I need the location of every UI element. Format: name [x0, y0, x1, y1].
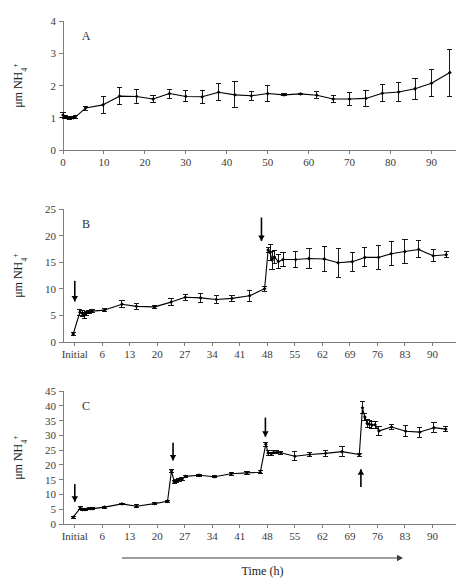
y-tick-label: 20: [45, 459, 57, 471]
x-tick-label: 55: [289, 530, 301, 542]
data-point-marker: [168, 92, 172, 96]
y-tick-label: 20: [45, 230, 57, 242]
data-point-marker: [151, 97, 155, 101]
x-tick-label: 69: [344, 530, 356, 542]
data-point-marker: [217, 90, 221, 94]
data-point-marker: [389, 252, 393, 256]
axis-lines: [63, 21, 456, 150]
data-point-marker: [266, 92, 270, 96]
y-axis-title: μm NH4+: [11, 63, 29, 108]
data-point-marker: [331, 97, 335, 101]
y-tick-label: 25: [45, 203, 57, 215]
x-tick-label: Initial: [62, 530, 88, 542]
x-tick-label: Initial: [62, 348, 88, 360]
data-point-marker: [248, 294, 252, 298]
data-point-marker: [214, 298, 218, 302]
event-arrow-head-feed-event-48h: [258, 235, 264, 241]
x-tick-label: 62: [317, 348, 328, 360]
data-point-marker: [153, 502, 157, 506]
data-point-marker: [413, 87, 417, 91]
panel-letter: C: [82, 399, 90, 413]
x-tick-label: 20: [152, 530, 164, 542]
x-tick-label: 50: [262, 156, 274, 168]
data-point-marker: [377, 256, 381, 260]
panel-c: 051015202530354045Initial613202734414855…: [0, 375, 476, 587]
x-axis-title: Time (h): [242, 564, 284, 578]
plot-a: 012340102030405060708090Aμm NH4+: [0, 0, 476, 195]
x-tick-label: 27: [179, 348, 191, 360]
panel-a: 012340102030405060708090Aμm NH4+: [0, 0, 476, 195]
event-arrow-head-feed-event-24h: [170, 455, 176, 461]
x-tick-label: 20: [152, 348, 164, 360]
figure-root: 012340102030405060708090Aμm NH4+ 0510152…: [0, 0, 476, 587]
event-arrow-head-feed-event-48h: [262, 431, 268, 437]
x-tick-label: 30: [180, 156, 192, 168]
time-direction-arrow-head: [397, 555, 403, 561]
data-point-marker: [322, 257, 326, 261]
data-point-marker: [118, 94, 122, 98]
data-series-line: [63, 73, 450, 118]
data-point-marker: [363, 415, 367, 419]
event-arrow-head-feed-event-0h: [72, 496, 78, 502]
y-axis-title: μm NH4+: [11, 253, 29, 298]
data-point-marker: [184, 95, 188, 99]
y-tick-label: 0: [51, 336, 57, 348]
y-tick-label: 15: [45, 256, 57, 268]
x-tick-label: 40: [221, 156, 233, 168]
data-point-marker: [199, 296, 203, 300]
data-point-marker: [350, 260, 354, 264]
x-tick-label: 13: [124, 530, 136, 542]
data-series-line: [73, 249, 446, 334]
y-tick-label: 1: [51, 112, 57, 124]
x-tick-label: 90: [427, 530, 439, 542]
x-tick-label: 34: [207, 530, 219, 542]
x-tick-label: 90: [427, 348, 439, 360]
data-point-marker: [404, 429, 408, 433]
data-point-marker: [324, 451, 328, 455]
data-point-marker: [336, 261, 340, 265]
data-point-marker: [418, 430, 422, 434]
data-point-marker: [432, 426, 436, 430]
panel-b: 0510152025Initial61320273441485562697683…: [0, 195, 476, 375]
y-tick-label: 10: [45, 488, 57, 500]
data-point-marker: [281, 258, 285, 262]
panel-letter: A: [82, 29, 91, 43]
data-point-marker: [363, 256, 367, 260]
data-point-marker: [390, 425, 394, 429]
data-point-marker: [380, 91, 384, 95]
y-tick-label: 2: [51, 80, 57, 92]
x-tick-label: 60: [303, 156, 315, 168]
x-tick-label: 76: [372, 530, 384, 542]
x-tick-label: 27: [179, 530, 191, 542]
y-tick-label: 30: [45, 429, 57, 441]
data-point-marker: [403, 250, 407, 254]
x-tick-label: 48: [262, 530, 274, 542]
data-point-marker: [249, 94, 253, 98]
x-tick-label: 41: [234, 348, 245, 360]
data-point-marker: [294, 258, 298, 262]
data-point-marker: [444, 427, 448, 431]
x-tick-label: 83: [399, 530, 411, 542]
x-tick-label: 90: [426, 156, 438, 168]
x-tick-label: 55: [289, 348, 301, 360]
plot-c: 051015202530354045Initial613202734414855…: [0, 375, 476, 587]
plot-b: 0510152025Initial61320273441485562697683…: [0, 195, 476, 375]
data-point-marker: [364, 97, 368, 101]
data-point-marker: [135, 95, 139, 99]
data-point-marker: [264, 442, 268, 446]
event-arrow-head-feed-event-72h: [358, 469, 364, 475]
y-tick-label: 15: [45, 474, 57, 486]
panel-letter: B: [82, 217, 90, 231]
data-point-marker: [200, 95, 204, 99]
data-point-marker: [120, 302, 124, 306]
data-point-marker: [169, 300, 173, 304]
x-tick-label: 6: [100, 348, 106, 360]
data-point-marker: [293, 454, 297, 458]
x-tick-label: 41: [234, 530, 245, 542]
y-tick-label: 0: [51, 518, 57, 530]
data-point-marker: [183, 295, 187, 299]
x-tick-label: 69: [344, 348, 356, 360]
axis-lines: [63, 209, 456, 342]
x-tick-label: 70: [344, 156, 356, 168]
y-tick-label: 3: [51, 47, 57, 59]
